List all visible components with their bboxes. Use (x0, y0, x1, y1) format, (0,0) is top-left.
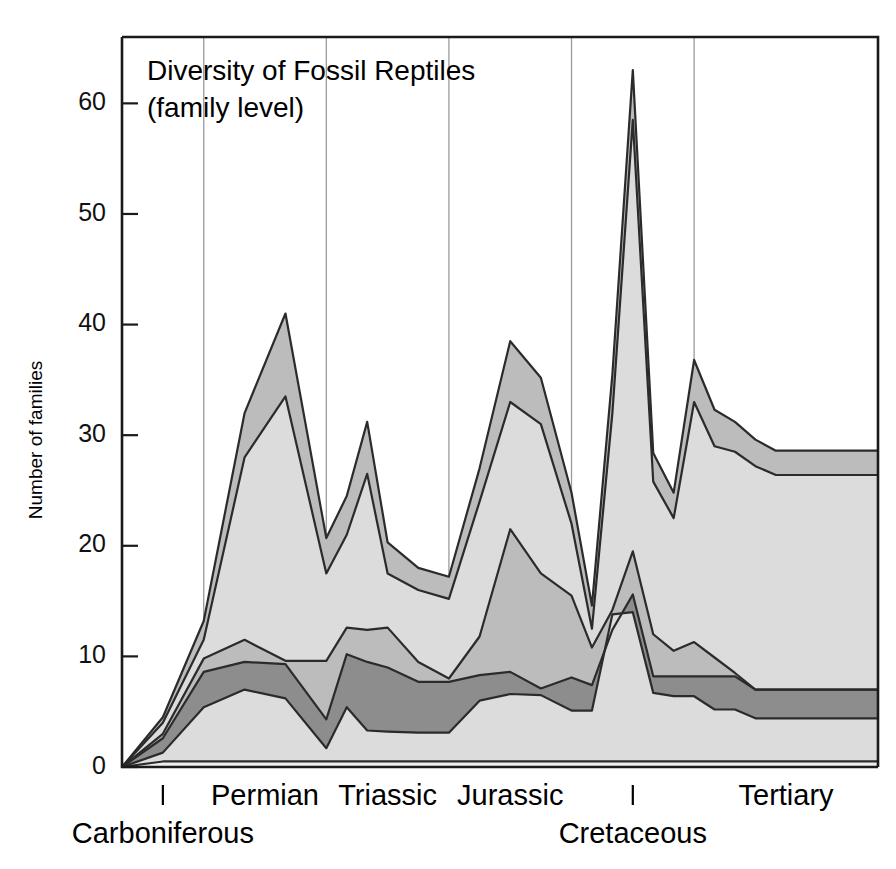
y-tick-label: 30 (78, 419, 106, 447)
y-tick-label: 40 (78, 308, 106, 336)
chart-title-line1: Diversity of Fossil Reptiles (147, 55, 475, 86)
period-label-tertiary: Tertiary (739, 779, 835, 811)
period-label-triassic: Triassic (338, 779, 437, 811)
period-label-jurassic: Jurassic (457, 779, 563, 811)
period-label-carboniferous: Carboniferous (72, 817, 254, 849)
fossil-reptile-diversity-figure: 0102030405060 Diversity of Fossil Reptil… (0, 0, 896, 869)
y-tick-label: 10 (78, 640, 106, 668)
x-axis-period-labels: CarboniferousPermianTriassicJurassicCret… (72, 779, 834, 849)
chart-canvas: 0102030405060 Diversity of Fossil Reptil… (0, 0, 896, 869)
y-axis-title: Number of families (25, 361, 46, 519)
y-tick-label: 20 (78, 529, 106, 557)
period-label-cretaceous: Cretaceous (559, 817, 707, 849)
y-tick-label: 0 (92, 751, 106, 779)
y-tick-label: 50 (78, 198, 106, 226)
chart-title-line2: (family level) (147, 92, 304, 123)
period-label-permian: Permian (211, 779, 319, 811)
y-tick-label: 60 (78, 87, 106, 115)
